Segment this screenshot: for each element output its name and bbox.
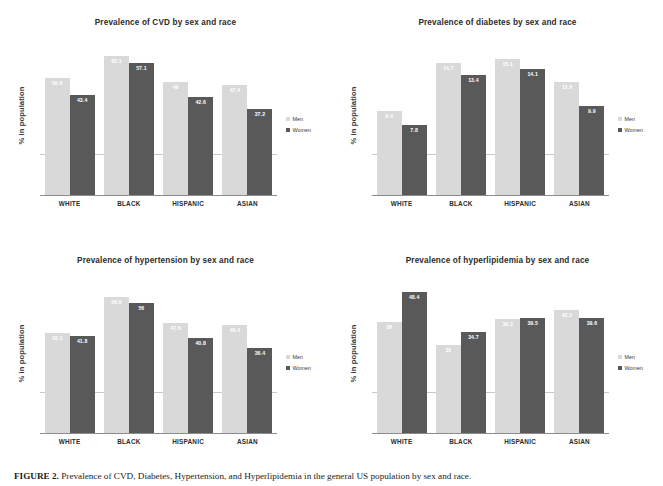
bar-value: 50.6 bbox=[52, 78, 63, 86]
bar-women[interactable]: 9.9 bbox=[579, 106, 604, 195]
bar-women[interactable]: 48.4 bbox=[402, 292, 427, 433]
legend-label-women: Women bbox=[293, 365, 311, 371]
legend-swatch-women-icon bbox=[618, 366, 622, 370]
chart-grid: Prevalence of CVD by sex and race % in p… bbox=[0, 0, 663, 466]
bars-row: 9.4 7.8 14.7 13.4 bbox=[372, 34, 609, 195]
bar-men[interactable]: 49 bbox=[163, 82, 188, 195]
bar-value: 39.2 bbox=[502, 319, 513, 327]
bar-women[interactable]: 56 bbox=[129, 303, 154, 433]
bar-group-white: 50.6 43.4 bbox=[40, 34, 99, 195]
bar-value: 14.7 bbox=[443, 63, 454, 71]
bar-value: 57.1 bbox=[136, 63, 147, 71]
y-axis-label: % in population bbox=[346, 272, 360, 434]
legend-label-men: Men bbox=[625, 354, 636, 360]
chart-panel-cvd: Prevalence of CVD by sex and race % in p… bbox=[0, 0, 331, 233]
bar-women[interactable]: 39.6 bbox=[579, 318, 604, 433]
bar-men[interactable]: 50.6 bbox=[45, 78, 70, 195]
bar-value: 43.4 bbox=[77, 95, 88, 103]
bar-women[interactable]: 41.8 bbox=[70, 336, 95, 433]
bar-group-asian: 46.4 36.4 bbox=[218, 272, 277, 433]
figure-caption: FIGURE 2. Prevalence of CVD, Diabetes, H… bbox=[14, 470, 650, 484]
bar-value: 41.8 bbox=[77, 336, 88, 344]
legend-item-women[interactable]: Women bbox=[618, 365, 643, 371]
legend-swatch-women-icon bbox=[286, 128, 290, 132]
bar-women[interactable]: 40.8 bbox=[188, 338, 213, 433]
y-axis-label: % in population bbox=[346, 34, 360, 196]
bar-women[interactable]: 39.5 bbox=[520, 318, 545, 433]
chart-panel-diabetes: Prevalence of diabetes by sex and race %… bbox=[332, 0, 663, 233]
legend-item-women[interactable]: Women bbox=[618, 127, 643, 133]
x-tick-label: ASIAN bbox=[550, 200, 609, 207]
bar-group-asian: 47.4 37.2 bbox=[218, 34, 277, 195]
bar-men[interactable]: 12.6 bbox=[554, 82, 579, 195]
bar-women[interactable]: 13.4 bbox=[461, 75, 486, 195]
legend-item-men[interactable]: Men bbox=[286, 354, 311, 360]
chart-title: Prevalence of hypertension by sex and ra… bbox=[0, 256, 331, 265]
legend-item-men[interactable]: Men bbox=[618, 116, 643, 122]
bar-women[interactable]: 7.8 bbox=[402, 125, 427, 195]
bar-value: 40.8 bbox=[195, 338, 206, 346]
bar-women[interactable]: 37.2 bbox=[247, 109, 272, 195]
bar-value: 46.4 bbox=[230, 325, 241, 333]
bar-value: 15.1 bbox=[502, 59, 513, 67]
x-axis-ticks: WHITE BLACK HISPANIC ASIAN bbox=[40, 200, 277, 207]
bar-men[interactable]: 38 bbox=[377, 322, 402, 433]
x-axis-line bbox=[372, 433, 609, 434]
bar-men[interactable]: 46.4 bbox=[222, 325, 247, 433]
bars-row: 38 48.4 30 34.7 bbox=[372, 272, 609, 433]
x-axis-line bbox=[372, 195, 609, 196]
bar-men[interactable]: 14.7 bbox=[436, 63, 461, 195]
bar-group-white: 38 48.4 bbox=[372, 272, 431, 433]
x-axis-ticks: WHITE BLACK HISPANIC ASIAN bbox=[372, 438, 609, 445]
bar-group-asian: 12.6 9.9 bbox=[550, 34, 609, 195]
x-tick-label: WHITE bbox=[372, 200, 431, 207]
chart-title: Prevalence of hyperlipidemia by sex and … bbox=[332, 256, 663, 265]
x-tick-label: WHITE bbox=[40, 438, 99, 445]
legend-item-women[interactable]: Women bbox=[286, 365, 311, 371]
bar-group-black: 14.7 13.4 bbox=[431, 34, 490, 195]
bar-value: 14.1 bbox=[527, 69, 538, 77]
chart-title: Prevalence of CVD by sex and race bbox=[0, 18, 331, 27]
bar-women[interactable]: 43.4 bbox=[70, 95, 95, 195]
bar-men[interactable]: 60.1 bbox=[104, 56, 129, 195]
bar-group-hispanic: 49 42.6 bbox=[159, 34, 218, 195]
legend-swatch-women-icon bbox=[618, 128, 622, 132]
legend-label-women: Women bbox=[625, 127, 643, 133]
bar-women[interactable]: 14.1 bbox=[520, 69, 545, 195]
bar-men[interactable]: 15.1 bbox=[495, 59, 520, 195]
bar-men[interactable]: 42.2 bbox=[554, 310, 579, 433]
x-axis-line bbox=[40, 433, 277, 434]
bars-row: 50.6 43.4 60.1 57.1 bbox=[40, 34, 277, 195]
bar-value: 47.6 bbox=[170, 323, 181, 331]
bar-men[interactable]: 43.3 bbox=[45, 333, 70, 433]
bar-women[interactable]: 34.7 bbox=[461, 332, 486, 433]
y-axis-label: % in population bbox=[14, 34, 28, 196]
bar-men[interactable]: 47.4 bbox=[222, 85, 247, 195]
chart-title: Prevalence of diabetes by sex and race bbox=[332, 18, 663, 27]
bar-women[interactable]: 57.1 bbox=[129, 63, 154, 195]
bar-women[interactable]: 36.4 bbox=[247, 348, 272, 433]
x-axis-ticks: WHITE BLACK HISPANIC ASIAN bbox=[372, 200, 609, 207]
chart-legend: Men Women bbox=[286, 116, 311, 133]
legend-item-women[interactable]: Women bbox=[286, 127, 311, 133]
bar-men[interactable]: 58.6 bbox=[104, 297, 129, 433]
y-axis-label: % in population bbox=[14, 272, 28, 434]
bar-men[interactable]: 47.6 bbox=[163, 323, 188, 433]
x-tick-label: ASIAN bbox=[218, 438, 277, 445]
bar-women[interactable]: 42.6 bbox=[188, 97, 213, 195]
figure-caption-text: Prevalence of CVD, Diabetes, Hypertensio… bbox=[61, 471, 471, 481]
figure-caption-label: FIGURE 2. bbox=[14, 471, 59, 481]
x-tick-label: BLACK bbox=[99, 200, 158, 207]
x-tick-label: HISPANIC bbox=[491, 438, 550, 445]
bar-men[interactable]: 9.4 bbox=[377, 111, 402, 195]
legend-item-men[interactable]: Men bbox=[618, 354, 643, 360]
bar-men[interactable]: 39.2 bbox=[495, 319, 520, 433]
bar-value: 12.6 bbox=[562, 82, 573, 90]
bars-row: 43.3 41.8 58.6 56 bbox=[40, 272, 277, 433]
bar-men[interactable]: 30 bbox=[436, 345, 461, 433]
bar-value: 30 bbox=[445, 345, 451, 353]
bar-value: 49 bbox=[173, 82, 179, 90]
bar-value: 36.4 bbox=[255, 348, 266, 356]
y-axis-label-text: % in population bbox=[349, 86, 358, 144]
legend-item-men[interactable]: Men bbox=[286, 116, 311, 122]
